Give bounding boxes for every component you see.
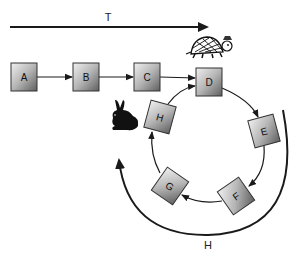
tortoise-path-arrow: T — [10, 11, 207, 27]
svg-text:D: D — [205, 77, 212, 88]
svg-text:C: C — [143, 72, 150, 83]
node-f: F — [217, 177, 254, 215]
edge-c-d — [160, 77, 195, 78]
tortoise-path-label: T — [105, 11, 112, 23]
node-g: G — [151, 167, 188, 205]
svg-text:A: A — [21, 72, 28, 83]
hare-path-label: H — [204, 239, 212, 251]
edge-h-d — [168, 86, 195, 104]
node-a: A — [11, 63, 37, 91]
edge-f-g — [182, 195, 222, 202]
edge-d-e — [222, 88, 258, 117]
edge-g-h — [152, 132, 160, 173]
cycle-detection-diagram: T H A B C D — [0, 0, 304, 259]
svg-text:B: B — [83, 72, 90, 83]
edge-e-f — [249, 146, 264, 186]
hare-icon — [112, 100, 138, 130]
node-e: E — [248, 114, 280, 148]
tortoise-icon — [186, 36, 232, 58]
node-d: D — [196, 68, 222, 96]
node-c: C — [134, 63, 160, 91]
node-h: H — [144, 100, 176, 134]
node-b: B — [73, 63, 99, 91]
